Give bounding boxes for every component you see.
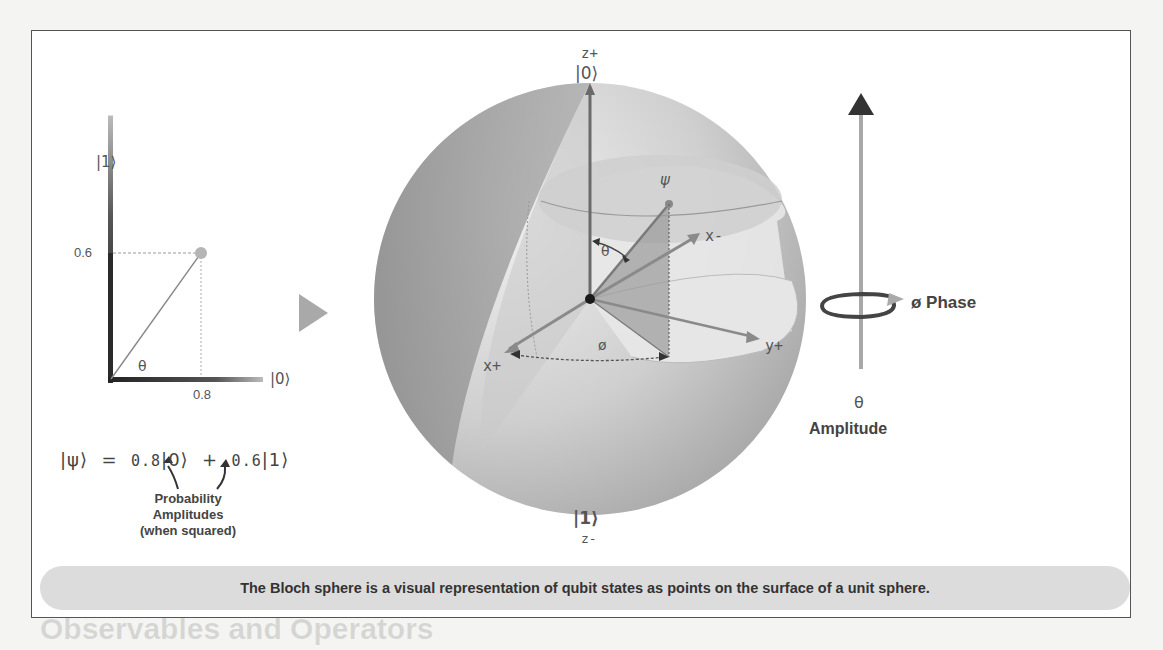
x-minus-label: x- [705,227,723,245]
x-axis [108,377,263,382]
top-ket-0-label: |0⟩ [575,63,598,83]
caption-band: The Bloch sphere is a visual representat… [40,566,1130,610]
probability-amplitudes-note: Probability Amplitudes (when squared) [140,491,236,539]
state-vector-line [111,253,201,379]
sphere-origin [585,294,595,304]
phase-label: ø Phase [911,293,976,313]
amplitude-axis [859,109,863,369]
figure-caption: The Bloch sphere is a visual representat… [240,580,930,596]
equals-sign: = [101,449,117,470]
bloch-sphere-graphic [374,83,806,515]
plus-sign: + [202,449,218,470]
right-pointer-icon [299,294,328,332]
z-plus-label: z+ [581,45,598,61]
note-line-3: (when squared) [140,523,236,539]
ket-0: |0⟩ [161,449,189,470]
note-line-1: Probability [140,491,236,507]
ket-1: |1⟩ [262,449,290,470]
state-equation: |ψ⟩ = 0.8|0⟩ + 0.6|1⟩ [60,449,289,470]
x-axis-ket-label: |0⟩ [270,370,290,388]
y-axis-ket-label: |1⟩ [96,153,116,171]
amplitude-arrow-head [848,93,874,115]
note-line-2: Amplitudes [140,507,236,523]
amplitude-label: Amplitude [809,420,887,438]
z-minus-label: z- [581,531,597,546]
amplitude-phase-diagram [822,93,904,369]
phase-rotation-arrow [822,294,894,317]
y-tick-label: 0.6 [74,245,92,260]
bloch-sphere-figure: |1⟩ 0.6 |0⟩ 0.8 θ |ψ⟩ = 0.8|0⟩ + 0.6|1⟩ … [31,30,1131,618]
x-tick-label: 0.8 [193,387,211,402]
amplitude-plane-diagram [108,116,263,383]
y-plus-label: y+ [765,337,783,355]
angle-theta-label: θ [138,358,147,374]
state-point [195,247,207,259]
psi-label: ψ [660,171,670,189]
phi-label: ø [598,337,607,353]
psi-ket: |ψ⟩ [60,449,88,470]
theta-label: θ [601,243,610,259]
x-plus-label: x+ [483,357,501,375]
bottom-ket-1-label: |1⟩ [573,508,599,528]
coefficient-0: 0.8 [131,452,161,470]
amplitude-theta-label: θ [854,393,864,412]
arrow-to-coef1 [217,467,225,489]
coefficient-1: 0.6 [232,452,262,470]
